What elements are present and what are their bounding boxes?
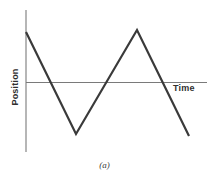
y-axis-label: Position <box>10 57 20 117</box>
figure-caption: (a) <box>0 160 209 170</box>
position-time-figure: Position Time (a) <box>0 0 209 185</box>
x-axis-label: Time <box>173 83 195 93</box>
